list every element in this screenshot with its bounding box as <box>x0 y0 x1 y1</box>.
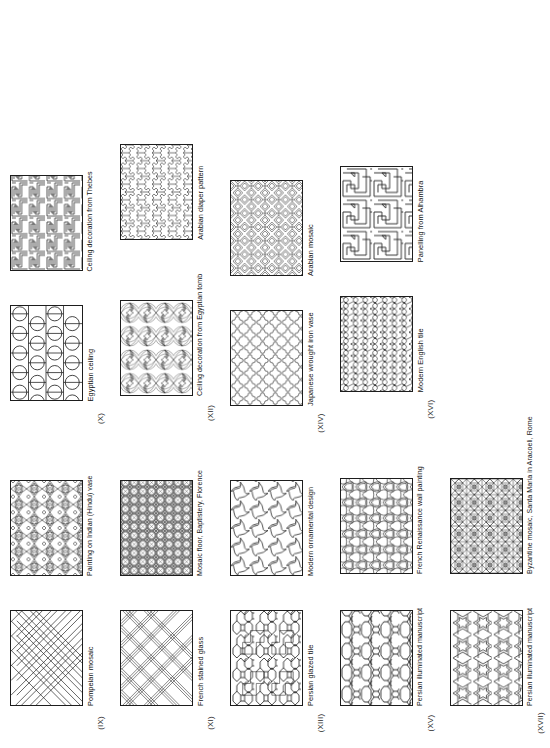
figure-caption: French Renaissance wall painting <box>416 466 425 574</box>
plate-row: (XVII) <box>450 8 550 740</box>
pattern-panel-byzantine-mosaic-aracoeli <box>450 478 523 574</box>
figure-roman-numeral: (X) <box>10 401 105 435</box>
figure-cell: (X) <box>10 305 114 435</box>
figure-cell: French Renaissance wall painting <box>340 466 444 608</box>
pattern-panel-arabian-diaper <box>120 144 193 240</box>
pattern-panel-thebes-ceiling <box>10 175 83 271</box>
figure-roman-numeral: (XI) <box>120 706 215 740</box>
figure-roman-numeral: (XVI) <box>340 392 435 426</box>
figure-roman-numeral <box>10 271 96 305</box>
figure-caption: French stained glass <box>196 637 205 706</box>
pattern-panel-japanese-iron-vase <box>230 310 303 406</box>
figure-caption: Persian illuminated manuscript <box>526 608 535 706</box>
figure-caption: Byzantine mosaic, Santa Maria in Aracoel… <box>526 416 535 574</box>
figure-cell: Mosaic floor, Baptistery, Florence <box>120 470 224 610</box>
figure-caption: Modern ornamental design <box>306 487 315 576</box>
pattern-panel-indian-vase-painting <box>10 480 83 576</box>
plate-row: (XV) <box>340 8 444 740</box>
figure-caption: Arabian diaper pattern <box>196 166 205 240</box>
figure-caption: Mosaic floor, Baptistery, Florence <box>196 470 205 576</box>
figure-roman-numeral <box>340 262 426 296</box>
figure-cell: (XI) <box>120 610 224 740</box>
pattern-panel-alhambra-panelling <box>340 166 413 262</box>
figure-cell: (IX) <box>10 610 114 740</box>
pattern-panel-persian-manuscript-stars <box>450 610 523 706</box>
figure-roman-numeral: (XII) <box>120 396 215 430</box>
pattern-panel-baptistery-mosaic-floor <box>120 480 193 576</box>
figure-cell: Painting on Indian (Hindu) vase <box>10 475 114 610</box>
figure-cell: (XVII) <box>450 608 550 740</box>
figure-cell: Byzantine mosaic, Santa Maria in Aracoel… <box>450 416 550 608</box>
plate-row: (IX) <box>10 8 114 740</box>
figure-roman-numeral <box>120 240 206 274</box>
figure-roman-numeral <box>230 576 316 610</box>
pattern-panel-persian-manuscript-hexagons <box>340 610 413 706</box>
figure-caption: Panelling from Alhambra <box>416 181 425 263</box>
pattern-panel-french-renaissance-wall <box>340 478 413 574</box>
figure-roman-numeral <box>230 276 316 310</box>
figure-caption: Ceiling decoration from Thebes <box>86 172 95 272</box>
figure-caption: Japanese wrought iron vase <box>306 312 315 406</box>
figure-roman-numeral <box>10 576 96 610</box>
pattern-panel-french-stained-glass <box>120 610 193 706</box>
figure-roman-numeral: (XIII) <box>230 706 325 740</box>
figure-roman-numeral <box>340 574 426 608</box>
figure-cell: Arabian mosaic <box>230 180 334 310</box>
pattern-panel-pompeian-mosaic <box>10 610 83 706</box>
figure-cell: Modern ornamental design <box>230 480 334 610</box>
plate-row: (XIII) <box>230 8 334 740</box>
figure-caption: Pompeian mosaic <box>86 647 95 707</box>
figure-roman-numeral <box>120 576 206 610</box>
figure-roman-numeral: (XV) <box>340 706 435 740</box>
figure-cell: (XV) <box>340 608 444 740</box>
figure-cell: (XIV) <box>230 310 334 440</box>
pattern-panel-egyptian-tomb-ceiling <box>120 300 193 396</box>
figure-cell: (XVI) <box>340 296 444 426</box>
figure-roman-numeral: (XVII) <box>450 706 545 740</box>
pattern-panel-arabian-mosaic <box>230 180 303 276</box>
figure-cell: (XIII) <box>230 610 334 740</box>
figure-roman-numeral <box>450 574 536 608</box>
plate-row: (XI) <box>120 8 224 740</box>
figure-cell: Panelling from Alhambra <box>340 166 444 296</box>
figure-roman-numeral: (IX) <box>10 706 105 740</box>
pattern-panel-modern-ornamental-design <box>230 480 303 576</box>
figure-cell: Arabian diaper pattern <box>120 144 224 274</box>
pattern-panel-egyptian-ceiling <box>10 305 83 401</box>
figure-caption: Arabian mosaic <box>306 224 315 276</box>
figure-caption: Ceiling decoration from Egyptian tomb <box>196 274 205 396</box>
figure-caption: Persian illuminated manuscript <box>416 608 425 706</box>
pattern-panel-modern-english-tile <box>340 296 413 392</box>
figure-caption: Painting on Indian (Hindu) vase <box>86 475 95 576</box>
figure-cell: Ceiling decoration from Thebes <box>10 172 114 306</box>
figure-roman-numeral: (XIV) <box>230 406 325 440</box>
pattern-panel-persian-glazed-tile <box>230 610 303 706</box>
figure-caption: Persian glazed tile <box>306 645 315 706</box>
figure-cell: (XII) <box>120 274 224 430</box>
figure-caption: Modern English tile <box>416 328 425 392</box>
figure-caption: Egyptian ceiling <box>86 349 95 402</box>
